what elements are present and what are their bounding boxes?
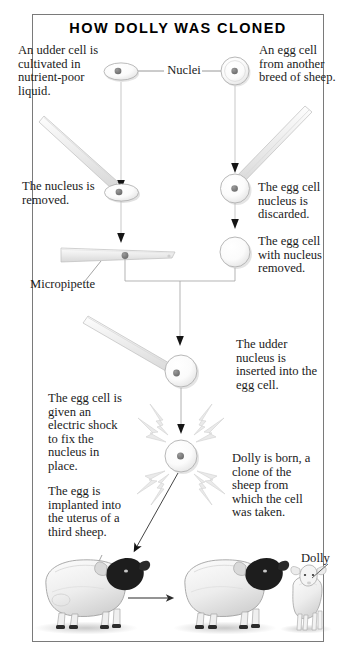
arrow-center-3 (177, 424, 185, 434)
label-micropipette: Micropipette (30, 278, 126, 292)
label-nuclei: Nuclei (163, 64, 205, 78)
arrow-right-1 (231, 163, 239, 173)
egg-cell-empty (220, 237, 252, 269)
arrow-left-2 (117, 233, 125, 243)
udder-cell-top (104, 63, 139, 82)
udder-cell-extract (105, 184, 141, 203)
micropipette-right-upper (233, 106, 312, 186)
caption-egg-nucleus-discarded: The egg cell nucleus is discarded. (258, 181, 342, 222)
cloned-ewe (173, 558, 289, 635)
caption-dolly-born: Dolly is born, a clone of the sheep from… (232, 452, 316, 520)
implantation-arrow (136, 473, 178, 548)
merge-bracket (125, 259, 235, 346)
shocked-cell (165, 440, 199, 474)
dolly-lamb (280, 565, 332, 634)
caption-implanted: The egg is implanted into the uterus of … (48, 485, 130, 539)
arrow-right-2 (231, 219, 239, 229)
caption-nucleus-removed: The nucleus is removed. (22, 180, 106, 207)
fused-cell (165, 355, 199, 389)
poster: HOW DOLLY WAS CLONED (0, 0, 356, 655)
caption-nucleus-inserted: The udder nucleus is inserted into the e… (236, 338, 328, 392)
label-dolly: Dolly (301, 552, 345, 566)
surrogate-ewe (34, 558, 150, 635)
caption-egg-cell-enucleated: The egg cell with nucleus removed. (258, 235, 344, 276)
micropipette-injection (83, 316, 176, 374)
caption-electric-shock: The egg cell is given an electric shock … (48, 392, 126, 474)
micropipette-horizontal (61, 248, 175, 262)
egg-cell-top (221, 57, 251, 87)
caption-egg-cell-source: An egg cell from another breed of sheep. (259, 44, 341, 85)
caption-udder-cell: An udder cell is cultivated in nutrient-… (18, 44, 108, 98)
